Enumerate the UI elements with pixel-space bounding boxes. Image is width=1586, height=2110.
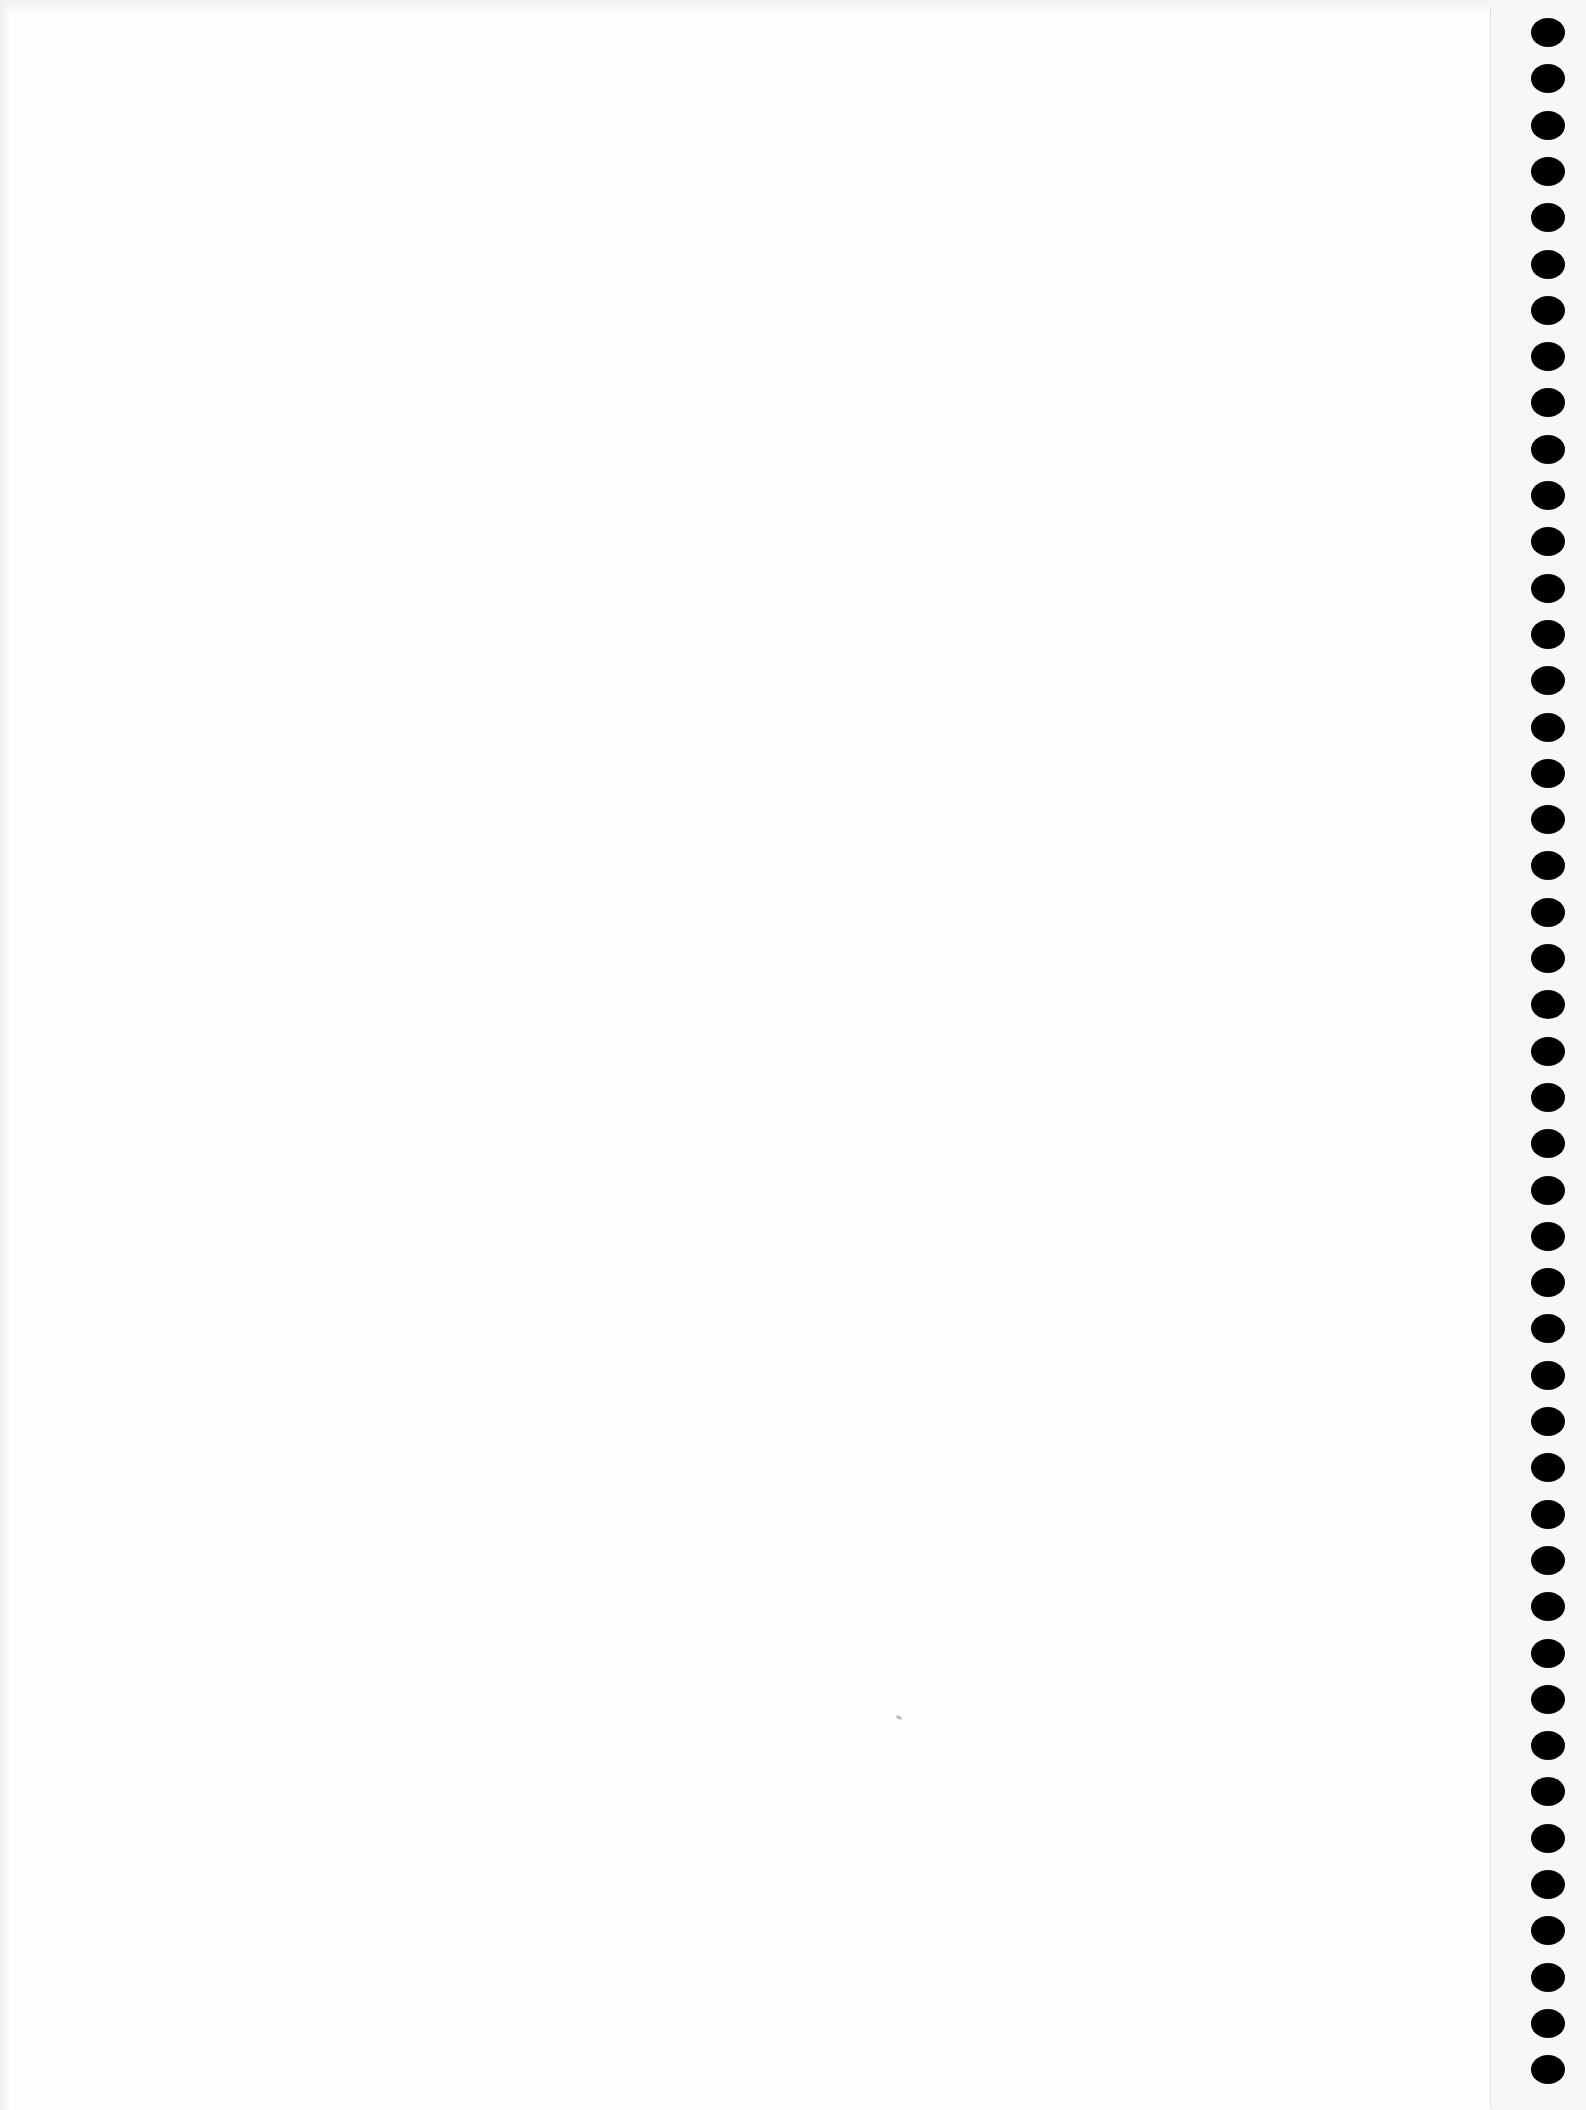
binding-hole bbox=[1531, 1361, 1565, 1390]
binding-hole bbox=[1531, 574, 1565, 603]
binding-hole bbox=[1531, 1731, 1565, 1760]
binding-hole bbox=[1531, 898, 1565, 927]
scan-edge-shadow-left bbox=[0, 0, 10, 2110]
binding-hole bbox=[1531, 18, 1565, 47]
binding-hole bbox=[1531, 944, 1565, 973]
binding-hole bbox=[1531, 481, 1565, 510]
binding-hole bbox=[1531, 1314, 1565, 1343]
binding-hole bbox=[1531, 2009, 1565, 2038]
binding-hole bbox=[1531, 1222, 1565, 1251]
binding-hole bbox=[1531, 111, 1565, 140]
binding-hole bbox=[1531, 851, 1565, 880]
binding-holes-column bbox=[1531, 0, 1567, 2110]
binding-hole bbox=[1531, 435, 1565, 464]
binding-hole bbox=[1531, 1407, 1565, 1436]
binding-hole bbox=[1531, 713, 1565, 742]
blank-page bbox=[0, 0, 1586, 2110]
binding-hole bbox=[1531, 388, 1565, 417]
binding-hole bbox=[1531, 157, 1565, 186]
binding-hole bbox=[1531, 1824, 1565, 1853]
binding-hole bbox=[1531, 1083, 1565, 1112]
binding-hole bbox=[1531, 296, 1565, 325]
binding-hole bbox=[1531, 1639, 1565, 1668]
binding-hole bbox=[1531, 1685, 1565, 1714]
binding-hole bbox=[1531, 527, 1565, 556]
binding-hole bbox=[1531, 1777, 1565, 1806]
binding-hole bbox=[1531, 250, 1565, 279]
scan-edge-shadow-top bbox=[0, 0, 1586, 14]
binding-hole bbox=[1531, 805, 1565, 834]
binding-hole bbox=[1531, 1870, 1565, 1899]
binding-hole bbox=[1531, 1500, 1565, 1529]
binding-hole bbox=[1531, 1129, 1565, 1158]
binding-hole bbox=[1531, 1176, 1565, 1205]
perforation-line bbox=[1490, 8, 1491, 2108]
binding-hole bbox=[1531, 1916, 1565, 1945]
binding-hole bbox=[1531, 990, 1565, 1019]
binding-hole bbox=[1531, 1453, 1565, 1482]
scan-speck bbox=[896, 1715, 903, 1721]
binding-hole bbox=[1531, 1268, 1565, 1297]
binding-hole bbox=[1531, 759, 1565, 788]
binding-hole bbox=[1531, 342, 1565, 371]
binding-hole bbox=[1531, 666, 1565, 695]
binding-hole bbox=[1531, 64, 1565, 93]
binding-hole bbox=[1531, 620, 1565, 649]
binding-hole bbox=[1531, 203, 1565, 232]
binding-hole bbox=[1531, 1963, 1565, 1992]
binding-hole bbox=[1531, 1037, 1565, 1066]
binding-hole bbox=[1531, 1592, 1565, 1621]
binding-hole bbox=[1531, 2055, 1565, 2084]
binding-hole bbox=[1531, 1546, 1565, 1575]
